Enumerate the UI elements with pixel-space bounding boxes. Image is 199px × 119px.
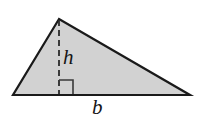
triangle-area-figure: h b xyxy=(0,0,199,119)
triangle-shape xyxy=(13,19,190,95)
height-label: h xyxy=(63,47,74,68)
base-label: b xyxy=(92,97,103,118)
